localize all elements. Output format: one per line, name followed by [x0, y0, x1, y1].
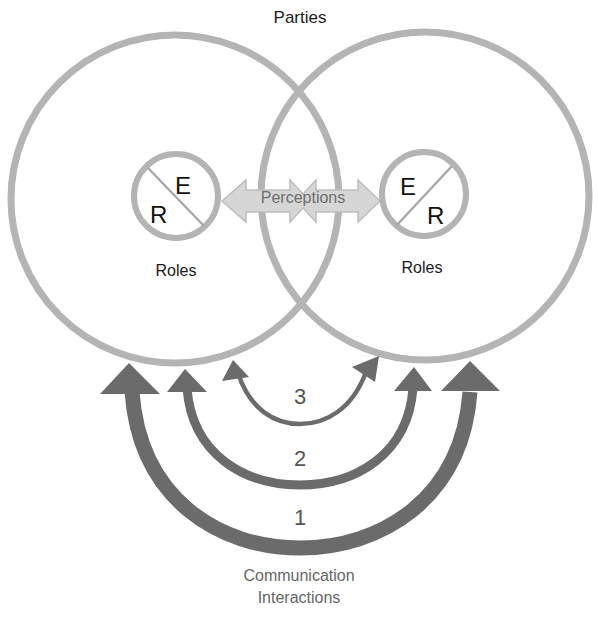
footer-line-1: Communication — [243, 565, 354, 587]
right-role-circle — [382, 152, 466, 236]
left-roles-label: Roles — [156, 262, 197, 280]
left-role-top-letter: E — [175, 172, 191, 200]
arrowhead-left-icon — [222, 360, 249, 381]
right-role-top-letter: E — [400, 173, 416, 201]
right-roles-label: Roles — [402, 259, 443, 277]
diagram-title: Parties — [274, 8, 327, 28]
right-role-bottom-letter: R — [427, 202, 444, 230]
footer-line-2: Interactions — [243, 587, 354, 609]
arrowhead-right-icon — [394, 367, 432, 391]
footer-caption: Communication Interactions — [243, 565, 354, 609]
arrowhead-left-icon — [100, 363, 160, 394]
interaction-level-2-label: 2 — [294, 446, 306, 472]
interaction-level-1-label: 1 — [294, 505, 306, 531]
interaction-level-3-label: 3 — [294, 384, 306, 410]
communication-diagram: Parties Perceptions E R Roles E R Roles … — [0, 0, 598, 618]
arrowhead-right-icon — [441, 361, 500, 391]
perceptions-label: Perceptions — [261, 189, 346, 207]
left-role-bottom-letter: R — [150, 201, 167, 229]
arrowhead-left-icon — [167, 369, 207, 392]
